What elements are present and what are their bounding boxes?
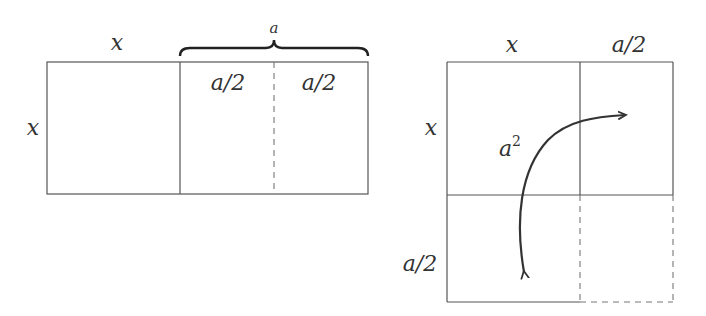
top-label-half: a/2 [612, 32, 647, 57]
brace-label: a [270, 19, 279, 37]
area-label: a2 [499, 133, 521, 161]
side-label-x: x [425, 115, 438, 140]
inner-label-right: a/2 [302, 70, 337, 95]
side-label-half: a/2 [403, 251, 438, 276]
area-label-base: a [499, 136, 512, 161]
side-label-x: x [27, 115, 40, 140]
diagram-canvas: a x x a/2 a/2 x a/2 x a/2 a2 [0, 0, 706, 316]
inner-label-left: a/2 [211, 70, 246, 95]
brace-icon [180, 40, 368, 56]
left-figure: a x x a/2 a/2 [27, 19, 368, 194]
right-figure: x a/2 x a/2 a2 [403, 32, 673, 302]
rotation-arrow-icon [520, 115, 625, 272]
top-label-x: x [111, 30, 124, 55]
area-label-exponent: 2 [512, 133, 521, 149]
top-label-x: x [506, 32, 519, 57]
